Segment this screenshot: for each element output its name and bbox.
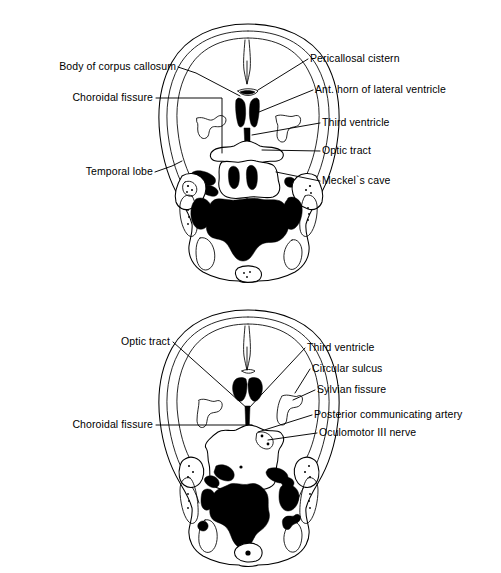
right-mastoid-dot-5 [308,213,310,215]
left-temporal-dot-1-lower [188,465,190,467]
label-ant-horn-of-lateral-ventricle: Ant. horn of lateral ventricle [315,83,446,95]
label-circular-sulcus: Circular sulcus [312,362,382,374]
label-choroidal-fissure-bottom: Choroidal fissure [72,418,153,430]
sphenoid-sinus-right [246,165,257,189]
right-mastoid-lower-dot-2 [308,500,310,502]
sphenoid-sinus-left [228,166,239,188]
label-third-ventricle-bottom: Third ventricle [307,341,375,353]
right-mastoid-dot-4 [307,207,309,209]
right-temporal-dot-1-lower [308,465,310,467]
foramen-dot-2 [249,271,251,273]
label-oculomotor-iii-nerve: Oculomotor III nerve [319,426,416,438]
label-third-ventricle-top: Third ventricle [322,116,390,128]
left-mastoid-dot-1 [187,185,189,187]
left-mastoid-dot-2 [191,189,193,191]
foramen-dot-3 [246,276,248,278]
foramen-magnum-center-dot-lower [245,550,250,555]
right-mastoid-dot-6 [307,219,309,221]
figure-canvas: Body of corpus callosum Choroidal fissur… [0,0,501,573]
label-choroidal-fissure-top: Choroidal fissure [72,91,153,103]
right-mastoid-dot-3 [310,192,312,194]
label-body-of-corpus-callosum: Body of corpus callosum [59,60,176,72]
anatomy-figure: Body of corpus callosum Choroidal fissur… [0,0,501,573]
posterior-communicating-artery-dot [261,435,264,438]
label-sylvian-fissure: Sylvian fissure [317,383,386,395]
left-mastoid-dot-3 [186,191,188,193]
left-temporal-dot-2-lower [192,471,194,473]
left-mastoid-dot-6 [187,223,189,225]
left-temporal-bone-lower [179,457,204,487]
right-temporal-bone-lower [294,457,319,487]
foramen-magnum [235,266,261,283]
pericallosal-cistern-shape [240,91,255,95]
label-posterior-communicating-artery: Posterior communicating artery [314,408,463,420]
right-temporal-dot-2-lower [304,471,306,473]
left-mastoid-lower-dot-2 [188,500,190,502]
left-mastoid-dot-5 [188,216,190,218]
label-meckels-cave: Meckel`s cave [322,174,391,186]
oculomotor-nerve-dot [267,443,270,446]
label-pericallosal-cistern: Pericallosal cistern [310,52,400,64]
left-mastoid-lower-dot-3 [187,507,189,509]
right-mastoid-dot-2 [305,189,307,191]
label-optic-tract-bottom: Optic tract [121,335,170,347]
right-mastoid-dot-1 [309,185,311,187]
midline-air-dot-lower [239,465,242,468]
right-mastoid-lower-dot-3 [309,507,311,509]
label-temporal-lobe: Temporal lobe [86,165,153,177]
right-mastoid-lower-dot-1 [309,493,311,495]
left-mastoid-lower-dot-1 [187,493,189,495]
foramen-dot-1 [243,272,245,274]
left-mastoid-dot-4 [187,209,189,211]
label-optic-tract-top: Optic tract [322,144,371,156]
